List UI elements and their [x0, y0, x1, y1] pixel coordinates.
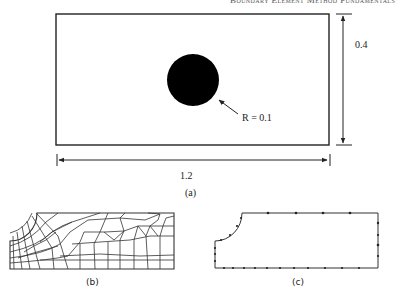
hole-circle — [167, 54, 219, 106]
boundary-nodes — [214, 212, 379, 269]
height-label: 0.4 — [355, 39, 368, 50]
width-label: 1.2 — [180, 170, 193, 181]
radius-arrow — [219, 100, 238, 114]
figure-a-caption: (a) — [185, 187, 196, 199]
figure-c-caption: (c) — [292, 277, 304, 287]
radius-label: R = 0.1 — [242, 112, 272, 123]
figure-c-boundary — [214, 212, 379, 269]
figure-b-mesh — [10, 213, 174, 269]
figure-a: R = 0.1 0.4 1.2 (a) — [56, 14, 368, 199]
figure-b-caption: (b) — [86, 277, 99, 287]
